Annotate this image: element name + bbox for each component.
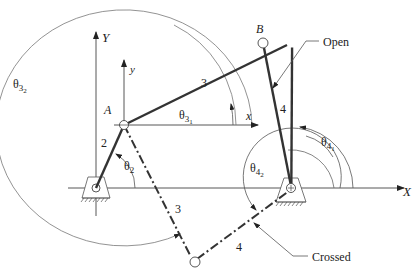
link-4-crossed <box>197 191 289 259</box>
link-4-open-label: 4 <box>280 102 286 116</box>
theta4-1-label: θ41 <box>321 135 335 153</box>
link-3-crossed <box>124 125 191 257</box>
global-x-label: X <box>402 184 412 199</box>
pin-b <box>258 38 268 48</box>
crossed-callout-leader <box>254 223 308 256</box>
open-callout-label: Open <box>323 35 349 49</box>
point-a-label: A <box>103 103 112 117</box>
theta4-2-label: θ42 <box>250 161 264 179</box>
link-4-open <box>291 47 292 187</box>
theta2-label: θ2 <box>124 159 134 175</box>
ground-pivot-o2 <box>81 177 110 202</box>
link-4-crossed-label: 4 <box>236 240 242 254</box>
theta3-2-label: θ32 <box>13 77 27 95</box>
link-3-open-label: 3 <box>201 76 207 90</box>
crossed-callout-label: Crossed <box>312 250 351 264</box>
theta3-1-label: θ31 <box>179 108 193 126</box>
fourbar-diagram: Y y x X A B 2 3 4 3 4 θ2 θ31 θ32 θ41 θ42… <box>0 0 418 275</box>
point-b-label: B <box>256 22 264 36</box>
global-y-label: Y <box>102 30 111 45</box>
link-3-crossed-label: 3 <box>175 202 181 216</box>
local-y-label: y <box>129 63 135 75</box>
pin-a <box>120 121 129 130</box>
theta3-1-arc <box>231 104 233 125</box>
link-2-label: 2 <box>101 136 107 150</box>
pin-b-crossed <box>190 257 200 267</box>
local-x-label: x <box>245 109 252 123</box>
pin-o4 <box>287 184 296 193</box>
